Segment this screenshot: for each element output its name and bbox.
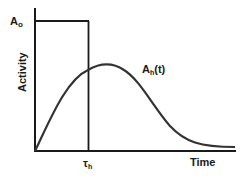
ah-curve-label: Ah(t)	[142, 63, 166, 76]
ah-curve	[35, 64, 235, 151]
activity-time-diagram: Ao Activity Ah(t) τh Time	[0, 0, 248, 178]
y-axis-label: Activity	[16, 51, 28, 92]
tau-h-label: τh	[83, 157, 92, 170]
a0-label: Ao	[10, 15, 23, 29]
x-axis-label: Time	[190, 156, 215, 168]
